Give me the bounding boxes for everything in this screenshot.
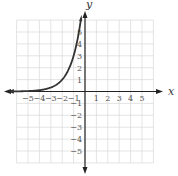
x-tick-label: 2 — [105, 94, 110, 103]
x-tick-label: −3 — [45, 94, 57, 103]
curve-line — [11, 19, 81, 92]
y-axis-down-arrow-icon — [83, 167, 88, 174]
x-tick-label: −4 — [34, 94, 46, 103]
x-tick-label: 3 — [117, 94, 122, 103]
y-tick-label: 1 — [77, 76, 82, 85]
y-tick-label: 3 — [77, 52, 82, 61]
y-tick-label: −2 — [70, 111, 82, 120]
y-axis-up-arrow-icon — [83, 11, 88, 18]
y-tick-label: −4 — [70, 135, 82, 144]
x-tick-label: −2 — [56, 94, 68, 103]
y-tick-label: −1 — [70, 99, 82, 108]
curve-end-arrow-icon — [79, 15, 82, 22]
x-tick-label: 1 — [94, 94, 99, 103]
y-axis-label: y — [85, 0, 93, 11]
x-axis-right-arrow-icon — [156, 89, 163, 94]
x-axis-label: x — [168, 85, 175, 98]
y-tick-label: −5 — [70, 147, 82, 156]
exponential-graph: −5−4−3−2−11234512345−1−2−3−4−5 x y — [0, 0, 178, 176]
x-tick-label: −5 — [22, 94, 34, 103]
y-tick-label: −3 — [70, 123, 82, 132]
x-tick-label: 4 — [128, 94, 133, 103]
x-tick-label: 5 — [139, 94, 144, 103]
data-curve — [8, 15, 82, 94]
y-tick-label: 2 — [77, 64, 82, 73]
